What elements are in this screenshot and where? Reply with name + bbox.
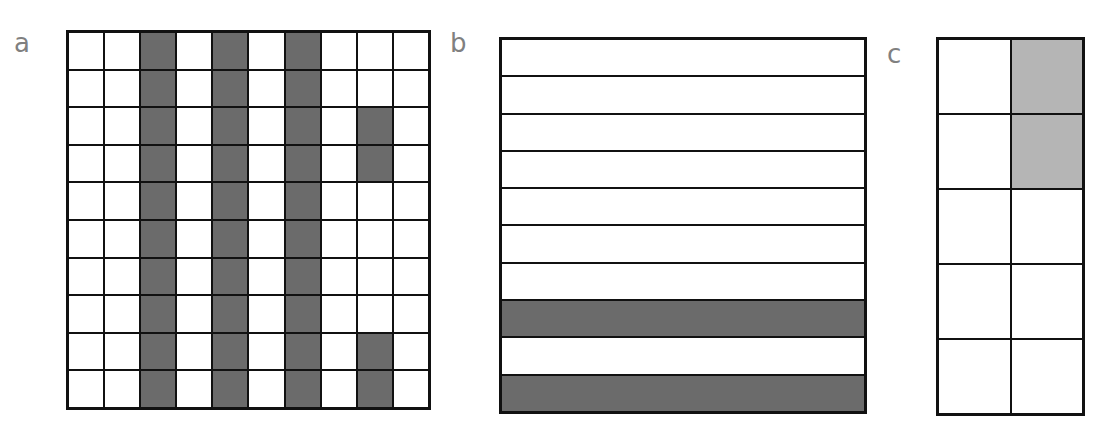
panel-b-label: b	[450, 30, 467, 56]
grid-cell-shaded	[285, 32, 321, 70]
grid-cell	[501, 39, 865, 76]
grid-cell	[1011, 264, 1084, 339]
grid-cell-shaded	[285, 70, 321, 108]
grid-cell	[321, 107, 357, 145]
grid-cell	[176, 107, 212, 145]
panel-a-grid	[66, 30, 431, 410]
grid-cell	[68, 258, 104, 296]
grid-cell	[68, 145, 104, 183]
grid-cell	[104, 32, 140, 70]
grid-cell	[321, 182, 357, 220]
grid-cell	[1011, 339, 1084, 414]
grid-cell	[393, 182, 429, 220]
grid-cell-shaded	[140, 145, 176, 183]
grid-cell-shaded	[212, 70, 248, 108]
grid-cell	[393, 32, 429, 70]
grid-cell	[938, 39, 1011, 114]
grid-cell	[104, 370, 140, 408]
grid-cell	[104, 145, 140, 183]
grid-cell	[176, 145, 212, 183]
grid-cell	[104, 295, 140, 333]
grid-cell	[393, 145, 429, 183]
grid-cell-shaded	[285, 333, 321, 371]
grid-cell	[248, 32, 284, 70]
grid-cell-shaded	[285, 107, 321, 145]
grid-cell	[357, 32, 393, 70]
grid-cell	[357, 258, 393, 296]
grid-cell-shaded	[140, 295, 176, 333]
grid-cell	[104, 220, 140, 258]
grid-cell-shaded	[212, 295, 248, 333]
grid-cell-shaded	[212, 32, 248, 70]
grid-cell-shaded	[501, 375, 865, 412]
grid-cell	[393, 370, 429, 408]
grid-cell-shaded	[140, 258, 176, 296]
grid-cell-shaded	[140, 220, 176, 258]
grid-cell	[321, 333, 357, 371]
grid-cell	[501, 263, 865, 300]
grid-cell	[68, 32, 104, 70]
grid-cell	[176, 370, 212, 408]
grid-cell	[393, 258, 429, 296]
grid-cell	[321, 258, 357, 296]
grid-cell	[104, 258, 140, 296]
grid-cell	[501, 151, 865, 188]
grid-cell	[938, 264, 1011, 339]
grid-cell	[68, 220, 104, 258]
grid-cell-shaded	[285, 220, 321, 258]
grid-cell	[68, 333, 104, 371]
grid-cell	[938, 189, 1011, 264]
grid-cell	[357, 182, 393, 220]
grid-cell	[321, 32, 357, 70]
grid-cell-shaded	[357, 333, 393, 371]
grid-cell	[393, 70, 429, 108]
grid-cell	[248, 333, 284, 371]
grid-cell	[176, 295, 212, 333]
grid-cell-shaded	[285, 258, 321, 296]
grid-cell-shaded	[140, 370, 176, 408]
grid-cell	[938, 114, 1011, 189]
grid-cell-shaded	[285, 370, 321, 408]
grid-cell	[176, 32, 212, 70]
grid-cell	[357, 70, 393, 108]
grid-cell-shaded	[212, 333, 248, 371]
grid-cell-shaded	[212, 145, 248, 183]
grid-cell	[104, 333, 140, 371]
grid-cell	[68, 182, 104, 220]
grid-cell	[104, 182, 140, 220]
grid-cell	[248, 107, 284, 145]
grid-cell-shaded	[212, 220, 248, 258]
panel-a-label: a	[14, 30, 30, 56]
grid-cell	[938, 339, 1011, 414]
grid-cell-shaded	[1011, 39, 1084, 114]
grid-cell	[501, 76, 865, 113]
grid-cell	[357, 220, 393, 258]
grid-cell-shaded	[285, 295, 321, 333]
grid-cell	[321, 220, 357, 258]
grid-cell	[68, 70, 104, 108]
grid-cell-shaded	[140, 107, 176, 145]
grid-cell-shaded	[285, 145, 321, 183]
grid-cell-shaded	[140, 333, 176, 371]
grid-cell	[1011, 189, 1084, 264]
grid-cell	[176, 182, 212, 220]
grid-cell-shaded	[212, 182, 248, 220]
grid-cell	[68, 370, 104, 408]
grid-cell-shaded	[212, 258, 248, 296]
grid-cell-shaded	[357, 145, 393, 183]
grid-cell-shaded	[357, 107, 393, 145]
grid-cell-shaded	[140, 70, 176, 108]
grid-cell	[104, 107, 140, 145]
grid-cell-shaded	[285, 182, 321, 220]
grid-cell	[321, 70, 357, 108]
grid-cell	[501, 114, 865, 151]
grid-cell	[393, 295, 429, 333]
panel-c-grid	[936, 37, 1085, 416]
grid-cell	[176, 258, 212, 296]
grid-cell	[393, 220, 429, 258]
grid-cell	[104, 70, 140, 108]
grid-cell	[393, 107, 429, 145]
grid-cell	[501, 225, 865, 262]
grid-cell	[248, 258, 284, 296]
grid-cell	[357, 295, 393, 333]
